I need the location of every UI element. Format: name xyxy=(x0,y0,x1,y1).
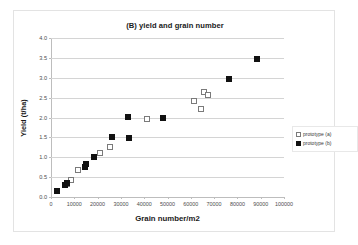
gridline xyxy=(51,177,284,178)
data-point xyxy=(126,135,132,141)
data-point xyxy=(97,150,103,156)
x-axis-tick xyxy=(98,197,99,199)
gridline xyxy=(51,78,284,79)
y-axis-tick xyxy=(49,98,51,99)
y-axis-tick-label: 3.0 xyxy=(39,75,47,81)
gridline xyxy=(51,118,284,119)
y-axis-tick xyxy=(49,58,51,59)
x-axis-tick xyxy=(214,197,215,199)
x-axis-tick-label: 0 xyxy=(50,201,53,207)
legend-item-prototype-a[interactable]: prototype (a) xyxy=(296,130,355,139)
gridline xyxy=(51,98,284,99)
data-point xyxy=(226,76,232,82)
data-point xyxy=(191,98,197,104)
y-axis-tick-label: 1.5 xyxy=(39,134,47,140)
x-axis-tick xyxy=(168,197,169,199)
data-point xyxy=(107,144,113,150)
data-point xyxy=(144,116,150,122)
y-axis-tick xyxy=(49,38,51,39)
x-axis-tick-label: 50000 xyxy=(160,201,175,207)
x-axis-tick-label: 20000 xyxy=(90,201,105,207)
x-axis-tick-label: 30000 xyxy=(113,201,128,207)
y-axis-tick-label: 0.0 xyxy=(39,194,47,200)
y-axis-tick xyxy=(49,157,51,158)
data-point xyxy=(125,114,131,120)
x-axis-tick-label: 100000 xyxy=(275,201,293,207)
gridline xyxy=(51,157,284,158)
y-axis-tick-label: 3.5 xyxy=(39,55,47,61)
y-axis-tick xyxy=(49,137,51,138)
chart-container: (B) yield and grain number Yield (t/ha) … xyxy=(13,10,335,232)
filled-square-marker-icon xyxy=(296,141,301,146)
y-axis-tick-label: 2.0 xyxy=(39,115,47,121)
x-axis-tick-label: 10000 xyxy=(67,201,82,207)
x-axis-tick xyxy=(284,197,285,199)
y-axis-tick xyxy=(49,118,51,119)
x-axis-tick xyxy=(144,197,145,199)
x-axis-tick-label: 90000 xyxy=(253,201,268,207)
data-point xyxy=(254,56,260,62)
y-axis-title: Yield (t/ha) xyxy=(19,99,28,137)
legend-label-prototype-a: prototype (a) xyxy=(303,132,331,137)
data-point xyxy=(160,115,166,121)
gridline xyxy=(51,137,284,138)
data-point xyxy=(75,167,81,173)
chart-title: (B) yield and grain number xyxy=(14,21,336,30)
x-axis-tick xyxy=(261,197,262,199)
legend-label-prototype-b: prototype (b) xyxy=(303,141,331,146)
data-point xyxy=(54,188,60,194)
data-point xyxy=(91,154,97,160)
y-axis-tick-label: 1.0 xyxy=(39,154,47,160)
y-axis-tick xyxy=(49,78,51,79)
data-point xyxy=(205,92,211,98)
data-point xyxy=(198,106,204,112)
chart-legend: prototype (a) prototype (b) xyxy=(292,126,358,152)
x-axis-tick-label: 60000 xyxy=(183,201,198,207)
y-axis-tick xyxy=(49,177,51,178)
y-axis-tick-label: 4.0 xyxy=(39,35,47,41)
x-axis-tick xyxy=(121,197,122,199)
gridline xyxy=(51,38,284,39)
x-axis-tick-label: 80000 xyxy=(230,201,245,207)
x-axis-title: Grain number/m2 xyxy=(51,214,284,223)
plot-area: 0.00.51.01.52.02.53.03.54.0 010000200003… xyxy=(51,38,284,197)
gridline xyxy=(51,58,284,59)
x-axis-tick xyxy=(51,197,52,199)
x-axis-tick-label: 70000 xyxy=(207,201,222,207)
x-axis-tick xyxy=(191,197,192,199)
x-axis-tick xyxy=(237,197,238,199)
open-square-marker-icon xyxy=(296,132,301,137)
data-point xyxy=(109,134,115,140)
legend-item-prototype-b[interactable]: prototype (b) xyxy=(296,139,355,148)
x-axis-tick xyxy=(74,197,75,199)
data-point xyxy=(64,180,70,186)
y-axis-tick-label: 0.5 xyxy=(39,174,47,180)
y-axis-tick-label: 2.5 xyxy=(39,95,47,101)
x-axis-tick-label: 40000 xyxy=(137,201,152,207)
data-point xyxy=(83,161,89,167)
